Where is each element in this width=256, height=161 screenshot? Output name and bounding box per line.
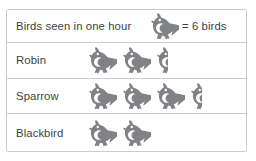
bird-icon <box>85 47 117 73</box>
bird-icon <box>119 47 151 73</box>
bird-icon <box>119 83 151 109</box>
table-header-row: Birds seen in one hour = 6 birds <box>7 10 246 43</box>
bird-icon <box>147 13 179 39</box>
row-label-sparrow: Sparrow <box>7 90 81 102</box>
bird-icon <box>153 83 185 109</box>
bird-icon <box>85 83 117 109</box>
pictogram-table: Birds seen in one hour = 6 birds <box>6 9 247 152</box>
bird-icon <box>119 120 151 146</box>
table-row: Blackbird <box>7 114 246 151</box>
table-row: Sparrow <box>7 79 246 115</box>
row-label-blackbird: Blackbird <box>7 127 81 139</box>
row-symbols-blackbird <box>81 114 246 151</box>
row-symbols-robin <box>81 43 246 78</box>
bird-icon-half <box>153 47 168 73</box>
row-label-robin: Robin <box>7 54 81 66</box>
table-row: Robin <box>7 43 246 79</box>
row-symbols-sparrow <box>81 79 246 114</box>
key-label: = 6 birds <box>182 20 227 32</box>
bird-icon-half <box>187 83 202 109</box>
chart-key: = 6 birds <box>147 10 227 42</box>
chart-title: Birds seen in one hour <box>7 20 147 32</box>
pictogram-chart-page: Birds seen in one hour = 6 birds <box>0 0 256 161</box>
bird-icon <box>85 120 117 146</box>
